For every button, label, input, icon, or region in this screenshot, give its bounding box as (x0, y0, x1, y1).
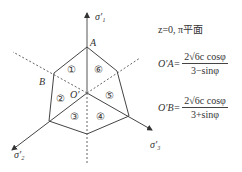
yield-hexagon (49, 47, 129, 134)
region-1: ① (67, 65, 76, 75)
region-6: ⑥ (94, 65, 103, 75)
formula-oa-lhs: O′A= (158, 59, 180, 69)
formula-oa-denominator: 3−sinφ (191, 64, 219, 76)
sigma3-label: σ′₃ (150, 140, 161, 150)
formula-ob: O′B= 2√6c cosφ 3+sinφ (158, 95, 228, 120)
region-3: ③ (70, 112, 79, 122)
condition-text: z=0, π平面 (158, 25, 203, 35)
formula-ob-lhs: O′B= (158, 103, 180, 113)
region-4: ④ (96, 112, 105, 122)
point-b-label: B (39, 77, 45, 87)
formula-oa-numerator: 2√6c cosφ (182, 51, 228, 64)
sigma2-label: σ′₂ (14, 150, 25, 160)
sigma1-label: σ′₁ (95, 12, 106, 22)
origin-label: O′ (70, 90, 79, 100)
formula-ob-numerator: 2√6c cosφ (182, 95, 228, 108)
formula-oa: O′A= 2√6c cosφ 3−sinφ (158, 51, 228, 76)
pi-plane-diagram (0, 0, 242, 172)
region-2: ② (56, 94, 65, 104)
point-a-label: A (90, 38, 96, 48)
formula-ob-denominator: 3+sinφ (191, 108, 219, 120)
region-5: ⑤ (105, 91, 114, 101)
